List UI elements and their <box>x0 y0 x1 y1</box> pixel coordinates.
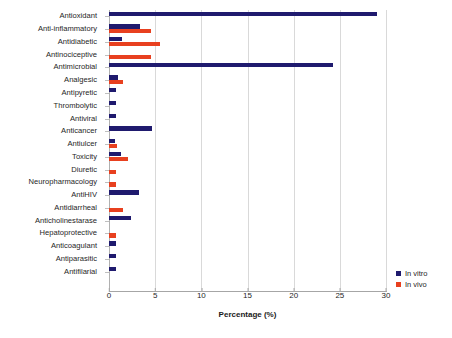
legend-swatch-in-vitro <box>396 271 401 276</box>
bar-in-vivo <box>109 29 151 33</box>
bar-in-vivo <box>109 233 116 237</box>
bar-group <box>109 61 452 74</box>
chart-row: Diuretic <box>0 163 452 176</box>
chart-row: AntiHIV <box>0 189 452 202</box>
bar-group <box>109 99 452 112</box>
bar-in-vitro <box>109 254 116 258</box>
chart-row: Anti-inflammatory <box>0 23 452 36</box>
bar-in-vitro <box>109 75 118 79</box>
category-label: Diuretic <box>71 166 97 174</box>
bar-group <box>109 214 452 227</box>
category-label: Antiparasitic <box>56 255 97 263</box>
x-tick-mark <box>248 288 249 292</box>
category-label: Toxicity <box>72 153 97 161</box>
x-tick-mark <box>386 288 387 292</box>
x-axis-ticks: 051015202530 <box>0 292 452 308</box>
chart-row: Antidiabetic <box>0 36 452 49</box>
category-label: Anti-inflammatory <box>38 25 97 33</box>
bar-group <box>109 112 452 125</box>
chart-row: Antiviral <box>0 112 452 125</box>
bar-group <box>109 189 452 202</box>
category-label: Antiviral <box>70 115 97 123</box>
x-tick-mark <box>340 288 341 292</box>
chart-row: Thrombolytic <box>0 99 452 112</box>
chart-row: Antinociceptive <box>0 48 452 61</box>
bar-group <box>109 10 452 23</box>
bar-in-vivo <box>109 55 151 59</box>
bar-in-vitro <box>109 139 115 143</box>
bar-group <box>109 74 452 87</box>
x-tick-label: 30 <box>382 292 391 300</box>
bar-group <box>109 240 452 253</box>
bar-in-vitro <box>109 126 152 130</box>
bar-chart: AntioxidantAnti-inflammatoryAntidiabetic… <box>0 0 452 338</box>
chart-row: Antifilarial <box>0 265 452 278</box>
chart-row: Antiparasitic <box>0 253 452 266</box>
legend-item-in-vivo[interactable]: In vivo <box>396 281 428 289</box>
chart-row: Neuropharmacology <box>0 176 452 189</box>
bar-group <box>109 163 452 176</box>
category-label: Hepatoprotective <box>40 230 97 238</box>
bar-in-vivo <box>109 182 116 186</box>
category-label: Anticoagulant <box>51 242 97 250</box>
x-tick-label: 10 <box>197 292 206 300</box>
chart-row: Antidiarrheal <box>0 201 452 214</box>
chart-row: Analgesic <box>0 74 452 87</box>
x-tick-label: 5 <box>153 292 157 300</box>
legend-item-in-vitro[interactable]: In vitro <box>396 270 428 278</box>
bar-in-vivo <box>109 157 128 161</box>
bar-in-vitro <box>109 267 116 271</box>
bar-in-vitro <box>109 63 333 67</box>
category-label: Antimicrobial <box>54 64 97 72</box>
bar-group <box>109 36 452 49</box>
bar-group <box>109 201 452 214</box>
x-tick-label: 15 <box>243 292 252 300</box>
category-label: Antidiabetic <box>58 38 97 46</box>
bar-in-vitro <box>109 152 121 156</box>
bar-group <box>109 150 452 163</box>
category-label: Antifilarial <box>64 268 97 276</box>
bar-in-vivo <box>109 208 123 212</box>
category-label: Anticancer <box>61 127 97 135</box>
bar-in-vivo <box>109 80 123 84</box>
category-label: Antidiarrheal <box>54 204 97 212</box>
bar-in-vitro <box>109 101 116 105</box>
category-label: Antipyretic <box>62 89 97 97</box>
x-tick-mark <box>201 288 202 292</box>
bar-group <box>109 227 452 240</box>
bar-in-vivo <box>109 42 160 46</box>
chart-row: Anticholinestarase <box>0 214 452 227</box>
x-axis-label: Percentage (%) <box>109 310 386 319</box>
bar-in-vivo <box>109 144 117 148</box>
chart-row: Hepatoprotective <box>0 227 452 240</box>
category-label: Antiulcer <box>67 140 97 148</box>
chart-row: Antimicrobial <box>0 61 452 74</box>
bar-group <box>109 253 452 266</box>
category-label: Antinociceptive <box>46 51 97 59</box>
x-tick-mark <box>109 288 110 292</box>
chart-rows: AntioxidantAnti-inflammatoryAntidiabetic… <box>0 10 452 291</box>
legend-label-in-vivo: In vivo <box>405 281 427 289</box>
bar-in-vitro <box>109 37 122 41</box>
chart-row: Anticoagulant <box>0 240 452 253</box>
bar-group <box>109 23 452 36</box>
x-tick-label: 0 <box>107 292 111 300</box>
bar-group <box>109 48 452 61</box>
chart-row: Anticancer <box>0 125 452 138</box>
category-label: AntiHIV <box>71 191 97 199</box>
bar-group <box>109 87 452 100</box>
chart-row: Toxicity <box>0 150 452 163</box>
category-label: Antioxidant <box>59 13 97 21</box>
bar-in-vitro <box>109 88 116 92</box>
bar-in-vivo <box>109 170 116 174</box>
x-tick-mark <box>155 288 156 292</box>
bar-in-vitro <box>109 114 116 118</box>
chart-row: Antiulcer <box>0 138 452 151</box>
category-label: Anticholinestarase <box>35 217 97 225</box>
chart-row: Antipyretic <box>0 87 452 100</box>
bar-in-vitro <box>109 190 139 194</box>
bar-in-vitro <box>109 12 377 16</box>
bar-group <box>109 138 452 151</box>
bar-in-vitro <box>109 241 116 245</box>
bar-group <box>109 176 452 189</box>
